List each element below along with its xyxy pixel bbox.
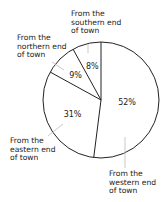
slice-value-label: 52% bbox=[118, 98, 136, 107]
label-southern: From the southern end of town bbox=[71, 10, 121, 36]
label-northern: From the northern end of town bbox=[17, 34, 67, 60]
label-western: From the western end of town bbox=[109, 170, 156, 196]
slice-value-label: 8% bbox=[86, 62, 99, 71]
slice-value-label: 31% bbox=[64, 110, 82, 119]
slice-value-label: 9% bbox=[69, 71, 82, 80]
label-eastern: From the eastern end of town bbox=[10, 137, 55, 163]
